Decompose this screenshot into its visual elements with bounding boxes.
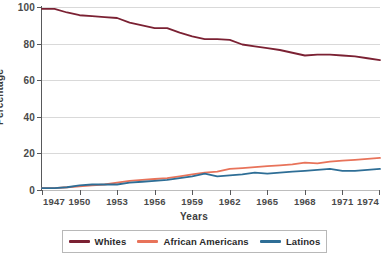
- x-axis-tick: [305, 190, 306, 195]
- x-axis-tick-label: 1956: [144, 196, 166, 207]
- legend-line-swatch-icon: [69, 240, 90, 243]
- legend-item-african-americans[interactable]: African Americans: [137, 236, 248, 247]
- legend-item-label: African Americans: [163, 236, 248, 247]
- legend-line-swatch-icon: [260, 240, 281, 243]
- x-axis-tick: [192, 190, 193, 195]
- legend-item-label: Latinos: [286, 236, 320, 247]
- legend-line-swatch-icon: [137, 240, 158, 243]
- plot-area: 020406080100: [42, 7, 380, 190]
- x-axis-tick-label: 1959: [181, 196, 203, 207]
- x-axis-tick-label: 1965: [256, 196, 278, 207]
- x-axis-tick-label: 1953: [106, 196, 128, 207]
- x-axis-tick: [267, 190, 268, 195]
- x-axis-title: Years: [0, 211, 388, 222]
- x-axis-tick-label: 1971: [331, 196, 353, 207]
- x-axis-tick-label: 1962: [219, 196, 241, 207]
- x-axis-tick: [42, 190, 43, 195]
- x-axis-group: 1947195019531956195919621965196819711974: [42, 190, 380, 210]
- line-chart: Percentage 020406080100 1947195019531956…: [0, 0, 388, 259]
- x-axis-tick-label: 1947: [43, 196, 65, 207]
- legend-item-latinos[interactable]: Latinos: [260, 236, 320, 247]
- y-axis-tick-label: 0: [29, 185, 35, 196]
- y-axis-tick-label: 40: [23, 111, 35, 122]
- x-axis-tick: [117, 190, 118, 195]
- x-axis-tick: [342, 190, 343, 195]
- legend-item-label: Whites: [95, 236, 127, 247]
- y-axis-title: Percentage: [0, 69, 5, 125]
- y-axis-tick-label: 80: [23, 38, 35, 49]
- y-axis-tick-label: 60: [23, 75, 35, 86]
- series-lines-group: [42, 7, 380, 190]
- x-axis-tick: [230, 190, 231, 195]
- x-axis-tick-label: 1974: [357, 196, 379, 207]
- x-axis-tick-label: 1950: [69, 196, 91, 207]
- x-axis-tick: [80, 190, 81, 195]
- chart-legend: WhitesAfrican AmericansLatinos: [62, 230, 327, 253]
- x-axis-tick-label: 1968: [294, 196, 316, 207]
- x-axis-tick: [379, 190, 380, 195]
- y-axis-tick-label: 20: [23, 148, 35, 159]
- y-axis-tick-label: 100: [18, 2, 35, 13]
- legend-item-whites[interactable]: Whites: [69, 236, 127, 247]
- x-axis-tick: [155, 190, 156, 195]
- series-line-whites: [42, 9, 380, 60]
